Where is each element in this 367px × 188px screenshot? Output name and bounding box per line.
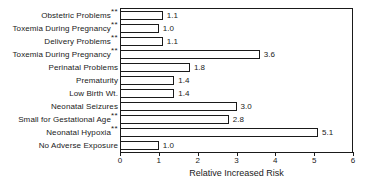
bar-chart-figure: Obstetric Problems**1.1Toxemia During Pr… xyxy=(0,0,367,188)
bar-row: Delivery Problems**1.1 xyxy=(0,35,367,48)
bar xyxy=(120,115,229,124)
bar xyxy=(120,76,174,85)
bar-row: No Adverse Exposure1.0 xyxy=(0,139,367,152)
bar xyxy=(120,11,163,20)
bar-value-label: 3.0 xyxy=(241,100,252,113)
significance-marker: ** xyxy=(111,124,118,133)
category-label: Perinatal Problems xyxy=(49,61,118,74)
bar-row: Low Birth Wt.1.4 xyxy=(0,87,367,100)
category-label: Toxemia During Pregnancy** xyxy=(13,22,118,35)
bar xyxy=(120,24,159,33)
x-tick-label: 0 xyxy=(118,156,122,165)
significance-marker: ** xyxy=(111,20,118,29)
category-label: Delivery Problems** xyxy=(44,35,118,48)
bar xyxy=(120,63,190,72)
bar xyxy=(120,89,174,98)
bar-value-label: 3.6 xyxy=(264,48,275,61)
x-tick-label: 4 xyxy=(273,156,277,165)
bar-value-label: 5.1 xyxy=(322,126,333,139)
bar-row: Perinatal Problems1.8 xyxy=(0,61,367,74)
significance-marker: ** xyxy=(111,33,118,42)
x-axis: 0123456 Relative Increased Risk xyxy=(120,152,353,188)
bar-value-label: 1.0 xyxy=(163,139,174,152)
category-label: Small for Gestational Age** xyxy=(18,113,118,126)
x-tick-label: 6 xyxy=(351,156,355,165)
x-axis-title: Relative Increased Risk xyxy=(120,168,353,178)
bar xyxy=(120,37,163,46)
x-tick-label: 3 xyxy=(234,156,238,165)
significance-marker: ** xyxy=(111,46,118,55)
significance-marker: ** xyxy=(111,7,118,16)
category-label: No Adverse Exposure xyxy=(39,139,118,152)
category-label: Low Birth Wt. xyxy=(69,87,118,100)
category-label: Neonatal Seizures xyxy=(51,100,118,113)
bar-row: Neonatal Seizures3.0 xyxy=(0,100,367,113)
bar-row: Toxemia During Pregnancy**1.0 xyxy=(0,22,367,35)
significance-marker: ** xyxy=(111,111,118,120)
bar-value-label: 1.0 xyxy=(163,22,174,35)
bar xyxy=(120,102,237,111)
bar xyxy=(120,141,159,150)
bar xyxy=(120,128,318,137)
bar-row: Toxemia During Pregnancy**3.6 xyxy=(0,48,367,61)
bar-value-label: 1.1 xyxy=(167,35,178,48)
category-label: Toxemia During Pregnancy** xyxy=(13,48,118,61)
bar-row: Small for Gestational Age**2.8 xyxy=(0,113,367,126)
category-label: Neonatal Hypoxia** xyxy=(46,126,118,139)
bar-row: Obstetric Problems**1.1 xyxy=(0,9,367,22)
bar-row: Prematurity1.4 xyxy=(0,74,367,87)
bar-value-label: 1.8 xyxy=(194,61,205,74)
x-tick-label: 5 xyxy=(312,156,316,165)
bar xyxy=(120,50,260,59)
category-label: Prematurity xyxy=(76,74,118,87)
x-tick-label: 2 xyxy=(195,156,199,165)
x-tick-label: 1 xyxy=(157,156,161,165)
bar-value-label: 2.8 xyxy=(233,113,244,126)
bar-value-label: 1.4 xyxy=(178,74,189,87)
bar-row: Neonatal Hypoxia**5.1 xyxy=(0,126,367,139)
category-label: Obstetric Problems** xyxy=(41,9,118,22)
bar-value-label: 1.1 xyxy=(167,9,178,22)
bar-value-label: 1.4 xyxy=(178,87,189,100)
